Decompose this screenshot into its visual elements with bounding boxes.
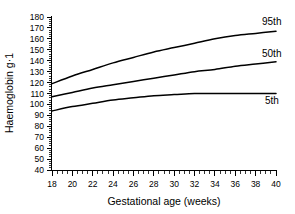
y-tick-label-110: 110 [30,89,44,99]
y-tick-label-140: 140 [30,56,44,66]
x-tick-label-20: 20 [68,179,78,189]
curve-95th [52,31,276,83]
y-tick-label-50: 50 [35,154,45,164]
y-tick-label-60: 60 [35,143,45,153]
y-tick-label-150: 150 [30,45,44,55]
series-label-5th: 5th [265,95,279,106]
y-tick-label-130: 130 [30,67,44,77]
y-tick-label-170: 170 [30,23,44,33]
x-tick-label-22: 22 [88,179,98,189]
x-tick-label-26: 26 [129,179,139,189]
y-tick-label-100: 100 [30,99,44,109]
x-axis-tick-labels: 182022242628303234363840 [47,179,281,189]
x-tick-label-40: 40 [271,179,281,189]
y-tick-label-70: 70 [35,132,45,142]
x-tick-label-28: 28 [149,179,159,189]
series-label-50th: 50th [262,48,281,59]
y-tick-label-160: 160 [30,34,44,44]
x-tick-label-36: 36 [231,179,241,189]
curve-50th [52,62,276,97]
series-label-95th: 95th [262,16,281,27]
y-tick-label-180: 180 [30,12,44,22]
y-axis-title: Haemoglobin g·1 [3,53,15,133]
y-tick-label-40: 40 [35,165,45,175]
x-tick-label-24: 24 [108,179,118,189]
x-tick-label-34: 34 [210,179,220,189]
curve-5th [52,93,276,111]
x-tick-label-30: 30 [169,179,179,189]
x-tick-label-38: 38 [251,179,261,189]
y-tick-label-120: 120 [30,78,44,88]
data-series-group [52,31,276,111]
x-axis-title: Gestational age (weeks) [107,195,220,207]
haemoglobin-gestational-age-chart: 405060708090100110120130140150160170180 … [0,0,295,214]
x-tick-label-32: 32 [190,179,200,189]
y-tick-label-80: 80 [35,121,45,131]
y-tick-label-90: 90 [35,110,45,120]
y-axis-tick-labels: 405060708090100110120130140150160170180 [30,12,44,175]
chart-canvas: 405060708090100110120130140150160170180 … [0,0,295,214]
x-tick-label-18: 18 [47,179,57,189]
